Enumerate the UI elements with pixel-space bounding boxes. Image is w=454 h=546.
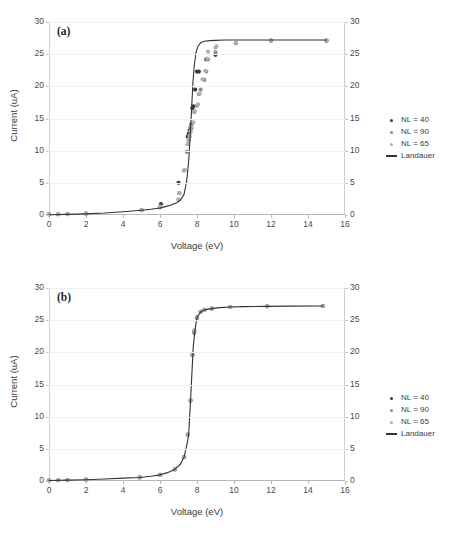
scatter-series <box>47 39 329 217</box>
y-tick-mark <box>345 288 348 289</box>
gridline <box>49 54 345 55</box>
legend-item[interactable]: Landauer <box>386 428 435 440</box>
x-tick-mark <box>345 481 346 484</box>
data-point <box>197 69 201 73</box>
y-tick-mark <box>46 119 49 120</box>
y-tick-mark <box>46 417 49 418</box>
data-point <box>191 120 195 124</box>
data-point <box>177 191 181 195</box>
x-tick-label: 4 <box>121 220 126 229</box>
y-tick-label-left: 15 <box>35 380 44 389</box>
legend-marker <box>390 409 393 412</box>
legend-item[interactable]: Landauer <box>386 150 435 162</box>
line-series-landauer <box>49 40 327 215</box>
legend-marker <box>390 119 393 122</box>
legend-item[interactable]: NL = 40 <box>386 392 435 404</box>
y-tick-label-left: 20 <box>35 347 44 356</box>
y-tick-mark <box>46 86 49 87</box>
gridline <box>49 449 345 450</box>
legend-label: Landauer <box>401 152 435 160</box>
x-tick-mark <box>234 481 235 484</box>
scatter-series <box>47 304 325 483</box>
gridline <box>49 352 345 353</box>
legend-line-icon <box>386 433 397 434</box>
y-tick-mark <box>46 54 49 55</box>
x-tick-label: 14 <box>303 220 312 229</box>
legend-label: NL = 65 <box>401 418 429 426</box>
x-tick-label: 0 <box>47 486 52 495</box>
x-tick-mark <box>160 215 161 218</box>
data-point <box>193 109 197 113</box>
legend-marker <box>390 143 393 146</box>
y-tick-label-right: 5 <box>350 444 355 453</box>
legend-label: NL = 90 <box>401 128 429 136</box>
data-point <box>198 91 202 95</box>
y-tick-label-left: 5 <box>39 444 44 453</box>
data-point <box>214 44 218 48</box>
x-tick-mark <box>345 215 346 218</box>
y-tick-label-right: 5 <box>350 178 355 187</box>
gridline <box>49 288 345 289</box>
x-tick-label: 16 <box>340 220 349 229</box>
y-tick-mark <box>345 385 348 386</box>
y-tick-label-left: 15 <box>35 114 44 123</box>
gridline <box>49 119 345 120</box>
data-point <box>189 125 193 129</box>
gridline <box>49 183 345 184</box>
x-tick-mark <box>271 215 272 218</box>
x-tick-label: 10 <box>229 220 238 229</box>
x-tick-mark <box>86 215 87 218</box>
legend-item[interactable]: NL = 40 <box>386 114 435 126</box>
scatter-series <box>47 39 329 217</box>
x-tick-label: 4 <box>121 486 126 495</box>
x-tick-mark <box>49 481 50 484</box>
legend-item[interactable]: NL = 65 <box>386 416 435 428</box>
legend-marker <box>386 433 397 434</box>
y-tick-label-left: 30 <box>35 17 44 26</box>
legend-marker <box>390 397 393 400</box>
y-tick-mark <box>46 320 49 321</box>
data-point <box>324 39 328 43</box>
legend-item[interactable]: NL = 90 <box>386 404 435 416</box>
x-tick-mark <box>197 215 198 218</box>
gridline <box>49 151 345 152</box>
x-tick-label: 2 <box>84 220 89 229</box>
y-tick-label-right: 25 <box>350 315 359 324</box>
y-tick-mark <box>46 352 49 353</box>
x-tick-mark <box>49 215 50 218</box>
legend-item[interactable]: NL = 65 <box>386 138 435 150</box>
data-point <box>199 87 203 91</box>
x-tick-label: 16 <box>340 486 349 495</box>
y-tick-label-left: 25 <box>35 315 44 324</box>
panel-label-a: (a) <box>57 25 70 37</box>
x-tick-mark <box>197 481 198 484</box>
x-tick-label: 10 <box>229 486 238 495</box>
y-tick-mark <box>46 385 49 386</box>
scatter-series <box>47 304 325 483</box>
y-tick-label-right: 25 <box>350 49 359 58</box>
y-tick-label-left: 10 <box>35 412 44 421</box>
gridline <box>49 385 345 386</box>
y-tick-mark <box>345 320 348 321</box>
panel-label-b: (b) <box>57 291 71 303</box>
y-tick-label-right: 30 <box>350 283 359 292</box>
y-tick-label-left: 10 <box>35 146 44 155</box>
legend-label: NL = 40 <box>401 116 429 124</box>
y-tick-mark <box>345 119 348 120</box>
y-tick-label-left: 5 <box>39 178 44 187</box>
data-point <box>183 168 187 172</box>
y-tick-mark <box>345 151 348 152</box>
y-tick-mark <box>345 22 348 23</box>
y-tick-mark <box>345 417 348 418</box>
y-tick-label-left: 25 <box>35 49 44 58</box>
plot-area-b: 0055101015152020252530300246810121416 <box>49 288 345 481</box>
legend-marker <box>390 421 393 424</box>
x-tick-label: 6 <box>158 486 163 495</box>
x-tick-mark <box>86 481 87 484</box>
x-tick-label: 8 <box>195 486 200 495</box>
x-tick-mark <box>160 481 161 484</box>
y-tick-label-right: 0 <box>350 476 355 485</box>
legend-item[interactable]: NL = 90 <box>386 126 435 138</box>
y-tick-label-right: 30 <box>350 17 359 26</box>
legend-label: NL = 90 <box>401 406 429 414</box>
